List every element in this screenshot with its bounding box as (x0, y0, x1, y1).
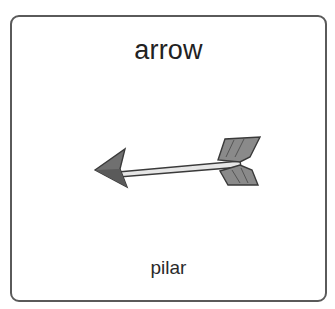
card-caption: pilar (12, 257, 325, 279)
arrow-icon (90, 127, 265, 192)
card-title: arrow (12, 35, 325, 66)
flashcard[interactable]: arrow pilar (10, 15, 327, 302)
